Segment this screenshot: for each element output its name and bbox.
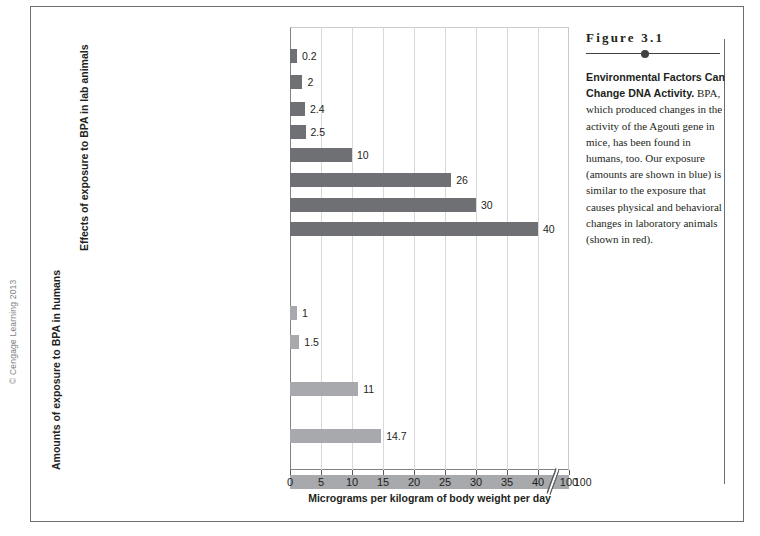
bar [290, 75, 302, 89]
bar-value-label: 40 [543, 222, 555, 236]
caption-rule [586, 53, 720, 62]
caption-body: Environmental Factors Can Change DNA Act… [586, 69, 726, 247]
bar-value-label: 30 [481, 198, 493, 212]
bar [290, 222, 538, 236]
caption-rule-dot [641, 50, 649, 58]
bar-value-label: 26 [456, 173, 468, 187]
figure-number: Figure 3.1 [586, 30, 726, 46]
x-axis-tick-label: 40 [532, 476, 544, 488]
x-axis-tick-label: 100 [560, 476, 578, 488]
bar [290, 198, 476, 212]
section-title-lab-animals: Effects of exposure to BPA in lab animal… [78, 44, 90, 251]
x-axis-tick [352, 470, 353, 475]
plot-area [290, 27, 569, 470]
bar [290, 49, 297, 63]
bar [290, 475, 569, 489]
x-axis-tick-label: 5 [318, 476, 324, 488]
bar-value-label: 2 [307, 75, 313, 89]
bar [290, 173, 451, 187]
x-axis-tick [476, 470, 477, 475]
gridline [476, 27, 477, 470]
bar-chart: Effects of exposure to BPA in lab animal… [0, 0, 600, 536]
x-axis-tick-label: 10 [346, 476, 358, 488]
bar-value-label: 0.2 [302, 49, 317, 63]
x-axis-tick [445, 470, 446, 475]
caption-text: BPA, which produced changes in the activ… [586, 87, 722, 245]
x-axis-tick-label: 15 [377, 476, 389, 488]
bar-value-label: 11 [363, 382, 374, 396]
gridline [321, 27, 322, 470]
x-axis-tick-label: 0 [287, 476, 293, 488]
x-axis-tick [290, 470, 291, 475]
bar-value-label: 10 [357, 148, 369, 162]
bar-value-label: 1.5 [304, 335, 319, 349]
bar-value-label: 2.4 [310, 102, 325, 116]
caption-panel: Figure 3.1 Environmental Factors Can Cha… [586, 30, 726, 247]
gridline [538, 27, 539, 470]
plot-background [290, 27, 569, 470]
gridline [383, 27, 384, 470]
x-axis-tick [569, 470, 570, 475]
gridline [414, 27, 415, 470]
x-axis-tick [321, 470, 322, 475]
bar [290, 429, 381, 443]
bar [290, 125, 306, 139]
gridline [352, 27, 353, 470]
x-axis-tick-label: 20 [408, 476, 420, 488]
x-axis-tick-label: 25 [439, 476, 451, 488]
bar [290, 382, 358, 396]
x-axis-title: Micrograms per kilogram of body weight p… [290, 492, 569, 504]
x-axis-tick-label: 35 [501, 476, 513, 488]
bar [290, 148, 352, 162]
x-axis-tick [414, 470, 415, 475]
bar-value-label: 2.5 [311, 125, 326, 139]
x-axis-tick [507, 470, 508, 475]
x-axis-tick [383, 470, 384, 475]
gridline [507, 27, 508, 470]
bar-value-label: 14.7 [386, 429, 406, 443]
gridline [445, 27, 446, 470]
section-title-humans: Amounts of exposure to BPA in humans [50, 270, 62, 470]
bar-value-label: 1 [302, 306, 308, 320]
bar [290, 306, 297, 320]
bar [290, 335, 299, 349]
bar [290, 102, 305, 116]
x-axis-tick-label: 30 [470, 476, 482, 488]
x-axis-tick [538, 470, 539, 475]
